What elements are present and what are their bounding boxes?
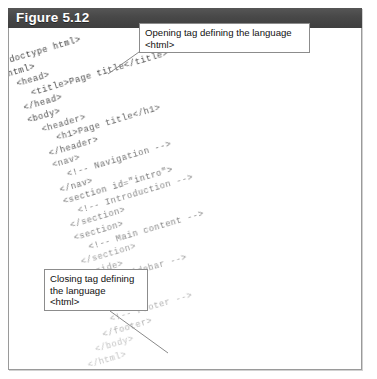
opening-tag-callout: Opening tag defining the language <html> (139, 23, 310, 53)
opening-callout-line-2: <html> (145, 39, 304, 51)
opening-callout-line-1: Opening tag defining the language (145, 27, 304, 39)
figure-label: Figure 5.12 (16, 10, 89, 25)
closing-callout-line-1: Closing tag defining (50, 273, 142, 285)
figure-container: Figure 5.12 <!doctype html><html> <head>… (0, 0, 377, 379)
code-listing: <!doctype html><html> <head> <title>Page… (9, 28, 361, 369)
closing-callout-line-2: the language (50, 285, 142, 297)
closing-tag-callout: Closing tag defining the language <html> (44, 269, 148, 311)
figure-canvas: <!doctype html><html> <head> <title>Page… (9, 28, 361, 369)
closing-callout-line-3: <html> (50, 296, 142, 308)
